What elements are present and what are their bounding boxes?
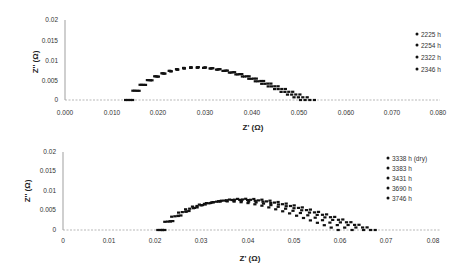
data-point: [269, 204, 272, 206]
data-point: [268, 200, 271, 202]
data-point: [304, 99, 307, 101]
data-point: [286, 94, 289, 96]
data-point: [233, 71, 236, 73]
data-point: [187, 210, 190, 212]
svg-text:2225 h: 2225 h: [421, 31, 441, 38]
legend-item: 3746 h: [387, 195, 413, 202]
data-point: [291, 210, 294, 212]
data-point: [265, 200, 268, 202]
legend-item: 3383 h: [387, 165, 413, 172]
data-point: [277, 201, 280, 203]
x-tick-labels: 0 0.01 0.02 0.03 0.04 0.05 0.06 0.07 0.0…: [61, 237, 440, 244]
svg-text:0.040: 0.040: [244, 109, 261, 116]
data-point: [262, 203, 265, 205]
data-point: [182, 67, 185, 69]
data-point: [277, 88, 280, 90]
data-point: [309, 219, 312, 221]
data-point: [273, 202, 276, 204]
data-point: [260, 205, 263, 207]
data-point: [308, 212, 311, 214]
svg-text:0: 0: [54, 96, 58, 103]
data-point: [188, 208, 191, 210]
data-point: [249, 199, 252, 201]
data-point: [293, 204, 296, 206]
svg-text:0.06: 0.06: [334, 237, 347, 244]
data-point: [301, 206, 304, 208]
svg-text:0.01: 0.01: [45, 57, 58, 64]
data-point: [287, 91, 290, 93]
svg-text:3690 h: 3690 h: [392, 185, 412, 192]
legend-item: 3431 h: [387, 175, 413, 182]
data-point: [323, 216, 326, 218]
data-point: [236, 198, 239, 200]
data-point: [204, 66, 207, 68]
svg-text:0.04: 0.04: [242, 237, 255, 244]
svg-text:0.020: 0.020: [150, 109, 167, 116]
x-axis-title: Z' (Ω): [243, 123, 264, 132]
legend-item: 2254 h: [416, 42, 442, 49]
data-point: [317, 211, 320, 213]
data-point: [240, 73, 243, 75]
legend: 2225 h 2254 h 2322 h 2346 h: [416, 31, 442, 73]
data-point: [301, 96, 304, 98]
data-point: [209, 202, 212, 204]
data-point: [325, 213, 328, 215]
svg-text:0.07: 0.07: [380, 237, 393, 244]
data-point: [292, 96, 295, 98]
data-point: [253, 203, 256, 205]
data-point: [349, 221, 352, 223]
x-axis-title: Z' (Ω): [240, 254, 261, 263]
data-point: [285, 205, 288, 207]
data-point: [228, 199, 231, 201]
data-point: [292, 207, 295, 209]
data-point: [173, 215, 176, 217]
data-point: [316, 222, 319, 224]
data-point: [269, 202, 272, 204]
data-point: [160, 72, 163, 74]
data-point: [288, 212, 291, 214]
data-point: [294, 93, 297, 95]
data-point: [260, 199, 263, 201]
plot-top: Z'' (Ω) 0 0.005 0.01 0.015 0.02 0.000 0.…: [31, 16, 447, 132]
data-series: [124, 66, 316, 101]
data-point: [267, 206, 270, 208]
data-point: [267, 85, 270, 87]
data-point: [153, 75, 156, 77]
data-point: [291, 91, 294, 93]
data-point: [273, 85, 276, 87]
data-point: [321, 214, 324, 216]
data-point: [313, 99, 316, 101]
data-point: [255, 78, 258, 80]
data-point: [297, 96, 300, 98]
svg-text:0.015: 0.015: [40, 167, 57, 174]
data-point: [277, 206, 280, 208]
x-tick-labels: 0.000 0.010 0.020 0.030 0.040 0.050 0.06…: [57, 109, 447, 116]
data-point: [175, 68, 178, 70]
legend-item: 2346 h: [416, 66, 442, 73]
data-point: [283, 91, 286, 93]
svg-text:3338 h (dry): 3338 h (dry): [392, 155, 427, 163]
svg-text:3383 h: 3383 h: [392, 165, 412, 172]
data-point: [361, 226, 364, 228]
data-point: [369, 229, 372, 231]
data-point: [263, 83, 266, 85]
data-point: [257, 199, 260, 201]
svg-text:0.01: 0.01: [43, 187, 56, 194]
data-point: [306, 214, 309, 216]
data-point: [299, 99, 302, 101]
data-point: [226, 70, 229, 72]
data-point: [353, 224, 356, 226]
data-point: [220, 200, 223, 202]
data-point: [295, 215, 298, 217]
data-point: [337, 219, 340, 221]
svg-text:0: 0: [61, 237, 65, 244]
data-point: [189, 66, 192, 68]
data-point: [280, 91, 283, 93]
data-point: [277, 203, 280, 205]
svg-text:0.05: 0.05: [288, 237, 301, 244]
data-point: [211, 67, 214, 69]
svg-text:0.080: 0.080: [430, 109, 447, 116]
data-point: [343, 227, 346, 229]
svg-text:0.02: 0.02: [45, 16, 58, 23]
data-point: [313, 211, 316, 213]
